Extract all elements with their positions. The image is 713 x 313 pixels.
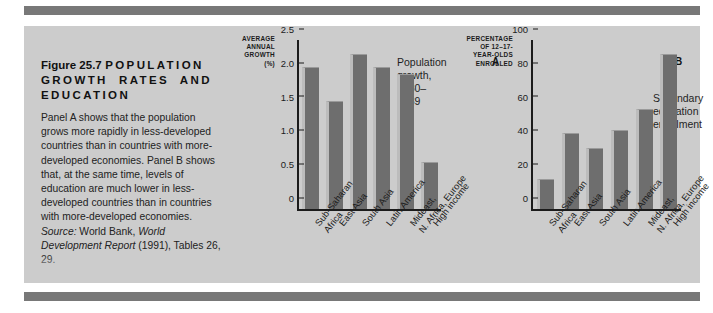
tick-mark (299, 62, 304, 63)
panel-b-ylabel-l3: YEAR-OLDS (473, 51, 513, 58)
x-label-cell: Latin America (607, 209, 632, 287)
tick-mark (533, 96, 538, 97)
figure-panel-container: Figure 25.7 POPULATION GROWTH RATES AND … (24, 26, 700, 283)
figure-title-line1: POPULATION (105, 59, 204, 71)
tick-mark (533, 28, 538, 29)
figure-number: Figure 25.7 (41, 59, 102, 71)
panel-b-y-axis-title: PERCENTAGE OF 12–17- YEAR-OLDS ENROLLED (455, 35, 513, 68)
panel-b-x-labels: Sub-SaharanAfricaEast AsiaSouth AsiaLati… (533, 209, 681, 287)
panel-b-ylabel-l1: PERCENTAGE (467, 35, 513, 42)
tick-mark (299, 96, 304, 97)
x-label-cell: East Asia (323, 209, 347, 287)
tick-mark (533, 197, 538, 198)
plotb-ytick: 80 (517, 57, 533, 68)
tick-mark (299, 163, 304, 164)
x-label-cell: High income (417, 209, 441, 287)
bar-cell (533, 40, 558, 209)
caption-main: Panel A shows that the population grows … (41, 112, 215, 222)
panel-a-ylabel-l3: GROWTH (244, 51, 275, 58)
plota-ytick: 1.0 (281, 125, 299, 136)
plotb-ytick: 100 (512, 24, 533, 35)
bar-cell (607, 40, 632, 209)
plota-ytick: 1.5 (281, 91, 299, 102)
panel-a: AVERAGE ANNUAL GROWTH (%) A Population g… (209, 26, 449, 283)
figure-caption-block: Figure 25.7 POPULATION GROWTH RATES AND … (41, 58, 225, 267)
plotb-ytick: 60 (517, 91, 533, 102)
figure-title-line3: EDUCATION (41, 89, 130, 101)
x-label-cell: High income (656, 209, 681, 287)
panel-a-x-labels: Sub-SaharanAfricaEast AsiaSouth AsiaLati… (299, 209, 441, 287)
x-label-cell: South Asia (582, 209, 607, 287)
caption-source-label: Source: (41, 226, 77, 237)
panel-b: PERCENTAGE OF 12–17- YEAR-OLDS ENROLLED … (449, 26, 694, 283)
panel-b-ylabel-l2: OF 12–17- (480, 43, 513, 50)
panel-a-plot-area: A Population growth, 1980–1989 Sub-Sahar… (297, 40, 441, 211)
plota-ytick: 0.5 (281, 159, 299, 170)
x-label-cell: East Asia (558, 209, 583, 287)
figure-page: Figure 25.7 POPULATION GROWTH RATES AND … (0, 0, 713, 313)
panel-a-ylabel-l2: ANNUAL (246, 43, 275, 50)
figure-title: Figure 25.7 POPULATION GROWTH RATES AND … (41, 58, 225, 103)
panel-a-y-axis-title: AVERAGE ANNUAL GROWTH (%) (221, 35, 275, 68)
tick-mark (533, 163, 538, 164)
x-label-cell: Sub-SaharanAfrica (299, 209, 323, 287)
bottom-rule (24, 292, 700, 301)
plota-ytick: 2.0 (281, 57, 299, 68)
x-label-cell: Latin America (370, 209, 394, 287)
tick-mark (533, 130, 538, 131)
tick-mark (533, 62, 538, 63)
caption-source-text: World Bank, (77, 226, 139, 237)
panel-a-ylabel-l4: (%) (264, 60, 275, 67)
x-label-cell: Sub-SaharanAfrica (533, 209, 558, 287)
plota-ytick: 0 (289, 193, 299, 204)
panel-b-plot-area: B Secondary education enrollment Sub-Sah… (531, 40, 681, 211)
top-rule (24, 6, 700, 15)
tick-mark (299, 130, 304, 131)
plotb-ytick: 40 (517, 125, 533, 136)
panel-a-ylabel-l1: AVERAGE (242, 35, 275, 42)
x-label-cell: Mideast,N. Africa, Europe (632, 209, 657, 287)
plotb-ytick: 0 (523, 193, 533, 204)
tick-mark (299, 197, 304, 198)
plota-ytick: 2.5 (281, 24, 299, 35)
panel-b-ylabel-l4: ENROLLED (476, 60, 513, 67)
figure-caption-text: Panel A shows that the population grows … (41, 111, 225, 267)
x-label-cell: South Asia (346, 209, 370, 287)
bar (302, 67, 319, 209)
bar-cell (370, 40, 394, 209)
bar (537, 179, 554, 209)
x-label-cell: Mideast,N. Africa, Europe (394, 209, 418, 287)
tick-mark (299, 28, 304, 29)
bar-cell (299, 40, 323, 209)
figure-title-line2: GROWTH RATES AND (41, 74, 212, 86)
plotb-ytick: 20 (517, 159, 533, 170)
